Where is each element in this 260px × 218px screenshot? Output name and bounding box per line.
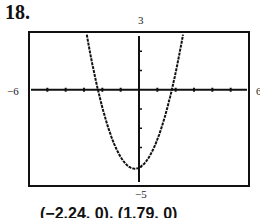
- zeros-answer: (−2.24, 0), (1.79, 0): [40, 205, 177, 218]
- graph-plot: [0, 0, 260, 218]
- parabola-curve: [87, 35, 183, 169]
